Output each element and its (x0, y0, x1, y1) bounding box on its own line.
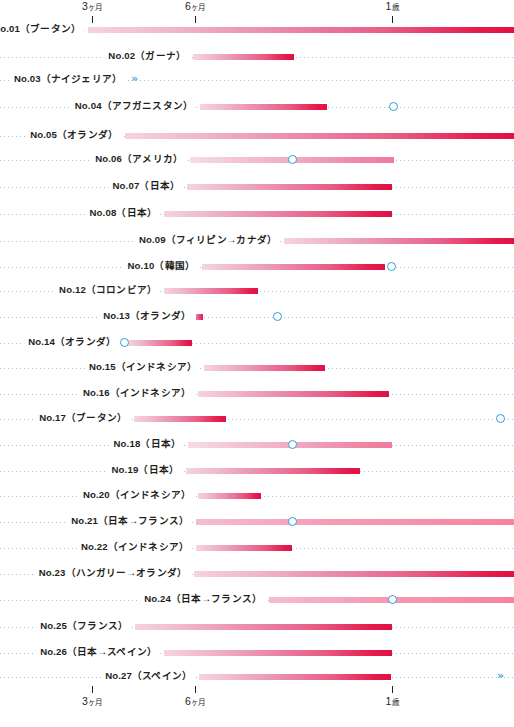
timeline-row[interactable]: No.16（インドネシア） (0, 382, 514, 408)
row-label: No.21（日本→フランス） (67, 514, 192, 528)
timeline-row[interactable]: No.13（オランダ） (0, 305, 514, 331)
row-label: No.25（フランス） (36, 619, 131, 633)
duration-bar[interactable] (164, 211, 392, 217)
timeline-row[interactable]: No.17（ブータン） (0, 407, 514, 433)
event-marker-icon[interactable] (288, 517, 297, 526)
timeline-row[interactable]: No.14（オランダ） (0, 331, 514, 357)
duration-bar[interactable] (134, 416, 226, 422)
timeline-row[interactable]: »No.03（ナイジェリア） (0, 68, 514, 94)
row-label: No.02（ガーナ） (104, 49, 189, 63)
timeline-row[interactable]: No.21（日本→フランス） (0, 510, 514, 536)
duration-bar[interactable] (196, 314, 203, 320)
row-label: No.13（オランダ） (99, 309, 194, 323)
row-label: No.04（アフガニスタン） (71, 99, 196, 113)
tick-label: 3ヶ月 (57, 0, 127, 14)
continues-chevron-icon: » (497, 670, 502, 681)
tick-label: 1歳 (357, 0, 427, 14)
tick-unit: ヶ月 (191, 698, 205, 707)
tick-unit: ヶ月 (88, 3, 102, 12)
duration-bar[interactable] (194, 571, 514, 577)
row-label: No.17（ブータン） (35, 411, 130, 425)
timeline-row[interactable]: No.05（オランダ） (0, 124, 514, 150)
row-label: No.26（日本→スペイン） (36, 645, 160, 659)
duration-bar[interactable] (202, 264, 385, 270)
row-label: No.24（日本→フランス） (140, 592, 265, 606)
event-marker-icon[interactable] (387, 262, 396, 271)
timeline-row[interactable]: No.26（日本→スペイン） (0, 641, 514, 667)
timeline-row[interactable]: No.25（フランス） (0, 615, 514, 641)
duration-bar[interactable] (125, 133, 514, 139)
row-label: No.06（アメリカ） (91, 152, 186, 166)
row-label: No.10（韓国） (124, 259, 198, 273)
row-label: No.19（日本） (108, 463, 182, 477)
timeline-row[interactable]: No.20（インドネシア） (0, 484, 514, 510)
row-label: No.27（スペイン） (101, 669, 195, 683)
tick-label: 1歳 (357, 695, 427, 709)
row-label: No.18（日本） (110, 437, 184, 451)
row-label: No.03（ナイジェリア） (10, 72, 125, 86)
event-marker-icon[interactable] (273, 312, 282, 321)
duration-bar[interactable] (187, 184, 392, 190)
event-marker-icon[interactable] (496, 414, 505, 423)
timeline-row[interactable]: No.22（インドネシア） (0, 536, 514, 562)
tick-unit: 歳 (392, 698, 399, 707)
duration-bar[interactable] (186, 468, 360, 474)
tick-unit: ヶ月 (88, 698, 102, 707)
event-marker-icon[interactable] (288, 440, 297, 449)
timeline-row[interactable]: No.23（ハンガリー→オランダ） (0, 562, 514, 588)
tick-label: 3ヶ月 (57, 695, 127, 709)
duration-bar[interactable] (196, 545, 292, 551)
row-label: No.12（コロンビア） (55, 283, 160, 297)
row-label: No.22（インドネシア） (77, 540, 192, 554)
row-label: No.16（インドネシア） (79, 386, 194, 400)
duration-bar[interactable] (196, 519, 514, 525)
duration-timeline-chart: 3ヶ月6ヶ月1歳 3ヶ月6ヶ月1歳 No.01（ブータン）No.02（ガーナ）»… (0, 0, 514, 727)
timeline-row[interactable]: »No.27（スペイン） (0, 665, 514, 691)
event-marker-icon[interactable] (120, 338, 129, 347)
row-label: No.23（ハンガリー→オランダ） (35, 566, 190, 580)
timeline-row[interactable]: No.15（インドネシア） (0, 356, 514, 382)
tick-label: 6ヶ月 (160, 0, 230, 14)
event-marker-icon[interactable] (389, 102, 398, 111)
row-label: No.14（オランダ） (24, 335, 119, 349)
tick-unit: ヶ月 (191, 3, 205, 12)
event-marker-icon[interactable] (388, 595, 397, 604)
duration-bar[interactable] (193, 54, 294, 60)
timeline-row[interactable]: No.09（フィリピン→カナダ） (0, 229, 514, 255)
row-label: No.05（オランダ） (26, 128, 121, 142)
row-label: No.08（日本） (86, 206, 160, 220)
timeline-row[interactable]: No.04（アフガニスタン） (0, 95, 514, 121)
row-label: No.07（日本） (109, 179, 183, 193)
duration-bar[interactable] (128, 340, 192, 346)
timeline-row[interactable]: No.08（日本） (0, 202, 514, 228)
tick-unit: 歳 (392, 3, 399, 12)
row-label: No.01（ブータン） (0, 22, 84, 36)
row-dotted-baseline (0, 317, 514, 318)
row-label: No.09（フィリピン→カナダ） (135, 233, 280, 247)
duration-bar[interactable] (164, 288, 258, 294)
duration-bar[interactable] (198, 391, 389, 397)
continues-chevron-icon: » (131, 73, 136, 84)
timeline-row[interactable]: No.01（ブータン） (0, 18, 514, 44)
timeline-row[interactable]: No.18（日本） (0, 433, 514, 459)
duration-bar[interactable] (198, 493, 261, 499)
timeline-row[interactable]: No.07（日本） (0, 175, 514, 201)
duration-bar[interactable] (88, 27, 514, 33)
duration-bar[interactable] (200, 104, 327, 110)
duration-bar[interactable] (204, 365, 325, 371)
duration-bar[interactable] (199, 674, 391, 680)
timeline-row[interactable]: No.06（アメリカ） (0, 148, 514, 174)
timeline-row[interactable]: No.10（韓国） (0, 255, 514, 281)
row-label: No.15（インドネシア） (85, 360, 200, 374)
timeline-row[interactable]: No.12（コロンビア） (0, 279, 514, 305)
tick-label: 6ヶ月 (160, 695, 230, 709)
event-marker-icon[interactable] (288, 155, 297, 164)
duration-bar[interactable] (135, 624, 392, 630)
duration-bar[interactable] (284, 238, 514, 244)
timeline-row[interactable]: No.24（日本→フランス） (0, 588, 514, 614)
duration-bar[interactable] (164, 650, 392, 656)
timeline-row[interactable]: No.19（日本） (0, 459, 514, 485)
axis-bottom: 3ヶ月6ヶ月1歳 (0, 686, 514, 720)
row-label: No.20（インドネシア） (79, 488, 194, 502)
